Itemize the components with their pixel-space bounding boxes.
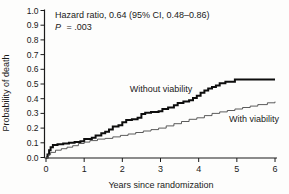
y-tick-label: 1.0 (27, 6, 39, 16)
y-tick-label: 0.2 (27, 123, 39, 133)
y-axis-title: Probability of death (1, 54, 11, 131)
x-axis-title: Years since randomization (108, 180, 213, 190)
y-tick-label: 0.3 (27, 108, 39, 118)
x-tick-label: 2 (120, 164, 125, 174)
x-tick-label: 5 (234, 164, 239, 174)
x-tick-label: 6 (273, 164, 278, 174)
y-tick-label: 0.1 (27, 138, 39, 148)
x-tick-label: 4 (196, 164, 201, 174)
x-tick-label: 0 (43, 164, 48, 174)
curve-label-with-viability: With viability (229, 114, 280, 124)
hazard-ratio-annotation: Hazard ratio, 0.64 (95% CI, 0.48–0.86) (55, 10, 210, 20)
y-tick-label: 0.7 (27, 50, 39, 60)
y-tick-label: 0.6 (27, 64, 39, 74)
p-value-text: = .003 (67, 22, 92, 32)
y-tick-label: 0.5 (27, 79, 39, 89)
curve-label-without-viability: Without viability (130, 84, 193, 94)
x-tick-label: 1 (82, 164, 87, 174)
curve-with-viability (46, 102, 275, 158)
y-tick-label: 0.9 (27, 20, 39, 30)
survival-chart-figure: 0.00.10.20.30.40.50.60.70.80.91.00123456… (0, 0, 289, 194)
p-value-annotation: P = .003 (55, 22, 92, 32)
y-tick-label: 0.4 (27, 94, 39, 104)
p-value-prefix: P (55, 22, 61, 32)
y-tick-label: 0.0 (27, 153, 39, 163)
kaplan-meier-chart: 0.00.10.20.30.40.50.60.70.80.91.00123456… (0, 0, 289, 194)
y-tick-label: 0.8 (27, 35, 39, 45)
x-tick-label: 3 (158, 164, 163, 174)
